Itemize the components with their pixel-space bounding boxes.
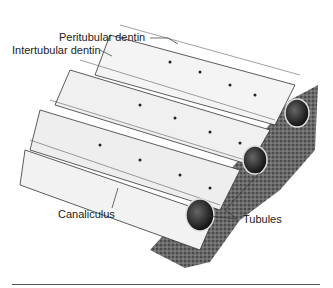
label-tubules: Tubules: [243, 213, 282, 225]
label-intertubular-dentin: Intertubular dentin: [12, 44, 101, 56]
label-peritubular-dentin: Peritubular dentin: [59, 31, 145, 43]
divider-rule: [12, 284, 320, 285]
label-canaliculus: Canaliculus: [58, 208, 115, 220]
